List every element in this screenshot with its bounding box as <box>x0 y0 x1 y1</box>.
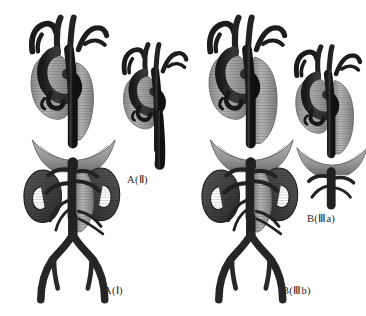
descending-thoracic-aorta-a2 <box>158 115 160 165</box>
panel-label-a2: A(Ⅱ) <box>127 173 148 185</box>
anatomy-figure-canvas <box>0 0 366 316</box>
kidney-left-b3b <box>202 170 240 223</box>
panel-label-a1: A(Ⅰ) <box>104 284 123 296</box>
panel-label-b3b: B(Ⅲb) <box>282 284 311 296</box>
panel-label-b3a: B(Ⅲa) <box>307 212 335 224</box>
kidney-left-a1 <box>24 170 62 223</box>
